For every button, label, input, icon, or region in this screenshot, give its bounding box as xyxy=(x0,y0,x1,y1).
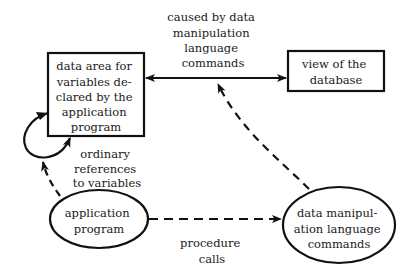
app-to-loop-dashed xyxy=(43,162,60,196)
loop-arrowhead-icon xyxy=(36,112,48,120)
diagram-canvas: data area for variables de- clared by th… xyxy=(0,0,414,279)
application-program-ellipse: application program xyxy=(50,190,148,248)
ordinary-references-label: ordinary references to variables xyxy=(73,147,141,190)
caused-by-label: caused by data manipulation language com… xyxy=(167,10,258,70)
database-view-box: view of the database xyxy=(288,51,384,91)
dml-commands-ellipse: data manipul- ation language commands xyxy=(283,187,395,263)
procedure-calls-label: procedure calls xyxy=(180,236,244,266)
dml-to-arrow-dashed xyxy=(218,84,309,189)
data-area-box: data area for variables de- clared by th… xyxy=(48,53,144,136)
